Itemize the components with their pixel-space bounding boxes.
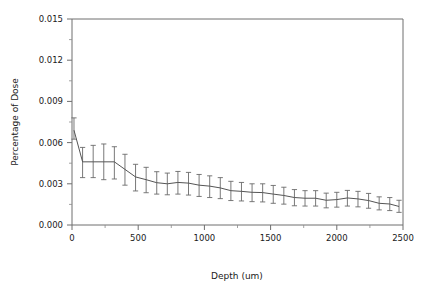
y-tick-label: 0.009	[39, 96, 63, 106]
x-tick-label: 1000	[194, 233, 216, 243]
y-tick-label: 0.006	[39, 138, 63, 148]
x-tick-label: 2500	[392, 233, 414, 243]
axis-frame	[72, 19, 403, 225]
y-axis-tick-labels: 0.0000.0030.0060.0090.0120.015	[39, 14, 63, 230]
x-tick-label: 1500	[260, 233, 282, 243]
x-tick-label: 0	[69, 233, 74, 243]
x-tick-label: 500	[130, 233, 146, 243]
y-tick-label: 0.012	[39, 55, 63, 65]
x-axis-title: Depth (um)	[211, 271, 263, 281]
scatter-line-plot: 0.0000.0030.0060.0090.0120.015 050010001…	[0, 0, 428, 297]
y-axis-ticks	[67, 19, 72, 225]
y-tick-label: 0.000	[39, 220, 63, 230]
data-series-line	[74, 130, 399, 206]
x-tick-label: 2000	[326, 233, 348, 243]
series-polyline	[74, 130, 399, 206]
plot-frame	[72, 19, 403, 225]
y-axis-title: Percentage of Dose	[10, 78, 20, 166]
x-axis-tick-labels: 05001000150020002500	[69, 233, 414, 243]
x-axis-ticks	[72, 225, 403, 230]
y-tick-label: 0.003	[39, 179, 63, 189]
y-tick-label: 0.015	[39, 14, 63, 24]
chart-container: 0.0000.0030.0060.0090.0120.015 050010001…	[0, 0, 428, 297]
